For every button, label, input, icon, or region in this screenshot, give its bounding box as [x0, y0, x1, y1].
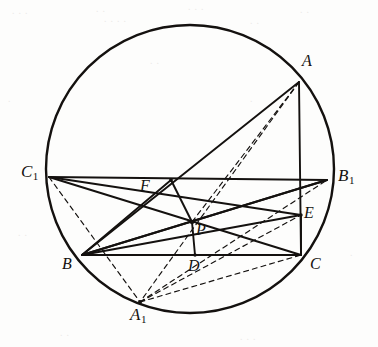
vertex-label-subscript: 1	[349, 174, 355, 186]
segment-C1-E	[49, 177, 301, 215]
vertex-label-text: F	[140, 177, 150, 194]
vertex-label-b: B	[62, 256, 72, 272]
point-dot-e	[299, 213, 302, 216]
dashed-A-A1	[140, 82, 299, 302]
vertex-label-text: C	[310, 255, 321, 272]
vertex-label-subscript: 1	[33, 170, 39, 182]
vertex-label-text: P	[196, 221, 206, 238]
dashed-A1-E	[140, 215, 301, 302]
solid-segments-layer	[49, 82, 327, 255]
vertex-label-b1: B1	[338, 167, 354, 184]
dashed-C1-A1	[49, 177, 140, 302]
vertex-label-text: C	[21, 162, 32, 181]
geometry-figure: ∙ ∙ ∙∙ ∙∙ ∙ ∙∙ ∙∙ ∙ ∙ ∙∙ ∙∙∙ ∙∙∙ ∙∙∙ ∙∙ …	[0, 0, 378, 347]
dashed-A1-B1	[140, 180, 327, 302]
vertex-label-d: D	[188, 258, 200, 274]
vertex-label-text: D	[188, 257, 200, 274]
vertex-label-c1: C1	[21, 163, 38, 180]
figure-canvas	[0, 0, 378, 347]
vertex-label-p: P	[196, 222, 206, 238]
vertex-label-e: E	[304, 205, 314, 221]
side-AB	[82, 82, 299, 255]
vertex-label-text: A	[302, 52, 312, 69]
chord-C1B1	[49, 177, 327, 180]
vertex-label-a1: A1	[130, 306, 146, 323]
point-dot-f	[169, 178, 173, 182]
point-dot-p	[190, 220, 194, 224]
vertex-label-f: F	[140, 178, 150, 194]
vertex-label-text: A	[130, 305, 140, 324]
dashed-A1-C	[140, 255, 301, 302]
vertex-label-text: B	[62, 255, 72, 272]
vertex-label-text: E	[304, 204, 314, 221]
vertex-label-subscript: 1	[141, 313, 147, 325]
point-dot-a1	[138, 300, 142, 304]
vertex-label-c: C	[310, 256, 321, 272]
vertex-label-a: A	[302, 53, 312, 69]
segment-P-D	[192, 222, 195, 255]
vertex-label-text: B	[338, 166, 348, 185]
